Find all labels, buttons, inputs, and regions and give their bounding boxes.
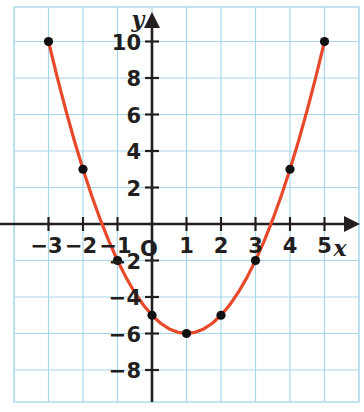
x-tick-label: 2 [214, 234, 229, 258]
x-tick-label: 1 [179, 234, 194, 258]
data-point [147, 311, 156, 320]
data-point [182, 329, 191, 338]
y-axis-label: y [131, 6, 147, 32]
data-point [285, 165, 294, 174]
data-point [320, 37, 329, 46]
y-tick-label: −4 [109, 286, 141, 310]
data-point [44, 37, 53, 46]
y-tick-label: 10 [112, 31, 141, 55]
data-point [216, 311, 225, 320]
y-tick-label: 2 [126, 177, 141, 201]
x-tick-label: 3 [248, 234, 263, 258]
x-tick-label: 5 [317, 234, 332, 258]
y-tick-label: −2 [109, 250, 141, 274]
x-axis-label: x [332, 235, 347, 261]
coordinate-plane-svg: −3−2−112345 108642−2−4−6−8 O x y [0, 0, 364, 412]
graph-figure: −3−2−112345 108642−2−4−6−8 O x y [0, 0, 364, 412]
data-point [78, 165, 87, 174]
x-tick-label: 4 [283, 234, 298, 258]
y-tick-label: −6 [109, 323, 141, 347]
x-tick-label: −2 [65, 234, 97, 258]
y-tick-label: 6 [126, 104, 141, 128]
origin-label: O [140, 237, 158, 261]
y-tick-label: 8 [126, 67, 141, 91]
y-tick-label: 4 [126, 140, 141, 164]
x-tick-label: −3 [30, 234, 62, 258]
y-tick-label: −8 [109, 359, 141, 383]
x-axis-tick-labels: −3−2−112345 [30, 234, 331, 258]
